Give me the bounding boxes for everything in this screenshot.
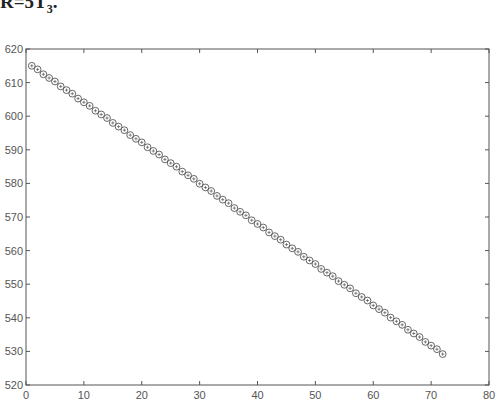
x-tick-label: 40 xyxy=(251,389,263,401)
data-point-cross xyxy=(430,344,433,347)
y-tick-label: 610 xyxy=(5,77,23,89)
x-tick-label: 50 xyxy=(309,389,321,401)
data-point-cross xyxy=(418,335,421,338)
data-point-cross xyxy=(366,299,369,302)
data-point-cross xyxy=(94,109,97,112)
scatter-chart: 0102030405060708052053054055056057058059… xyxy=(0,0,500,404)
data-point-cross xyxy=(320,267,323,270)
data-point-cross xyxy=(129,133,132,136)
data-point-cross xyxy=(291,247,294,250)
y-tick-label: 520 xyxy=(5,379,23,391)
data-point-cross xyxy=(395,320,398,323)
data-point-cross xyxy=(204,186,207,189)
data-point-cross xyxy=(285,243,288,246)
x-tick-label: 80 xyxy=(483,389,495,401)
data-point-cross xyxy=(198,182,201,185)
data-point-cross xyxy=(36,68,39,71)
data-point-cross xyxy=(134,137,137,140)
data-point-cross xyxy=(53,80,56,83)
data-point-cross xyxy=(337,279,340,282)
data-point-cross xyxy=(331,275,334,278)
data-point-cross xyxy=(71,92,74,95)
data-point-cross xyxy=(325,271,328,274)
data-point-cross xyxy=(30,64,33,67)
x-tick-label: 0 xyxy=(23,389,29,401)
data-point-cross xyxy=(88,104,91,107)
data-point-cross xyxy=(250,219,253,222)
data-point-cross xyxy=(349,287,352,290)
data-point-cross xyxy=(105,116,108,119)
data-point-cross xyxy=(314,262,317,265)
data-point-cross xyxy=(221,198,224,201)
data-point-cross xyxy=(65,89,68,92)
data-point-cross xyxy=(117,125,120,128)
data-point-cross xyxy=(406,328,409,331)
plot-frame xyxy=(26,49,489,385)
data-point-cross xyxy=(227,202,230,205)
data-point-cross xyxy=(169,162,172,165)
data-point-cross xyxy=(354,292,357,295)
data-point-cross xyxy=(210,189,213,192)
data-point-cross xyxy=(262,226,265,229)
data-point-cross xyxy=(256,222,259,225)
data-point-cross xyxy=(175,165,178,168)
y-tick-label: 590 xyxy=(5,144,23,156)
data-point-cross xyxy=(412,332,415,335)
data-point-cross xyxy=(186,174,189,177)
data-point-cross xyxy=(158,153,161,156)
data-point-cross xyxy=(244,214,247,217)
data-point-cross xyxy=(435,348,438,351)
data-point-cross xyxy=(152,149,155,152)
x-tick-label: 30 xyxy=(194,389,206,401)
data-point-cross xyxy=(441,352,444,355)
y-tick-label: 570 xyxy=(5,211,23,223)
y-tick-label: 550 xyxy=(5,278,23,290)
data-point-cross xyxy=(233,206,236,209)
data-point-cross xyxy=(215,194,218,197)
y-tick-label: 620 xyxy=(5,43,23,55)
data-point-cross xyxy=(140,141,143,144)
data-point-cross xyxy=(279,238,282,241)
data-point-cross xyxy=(59,85,62,88)
y-tick-label: 540 xyxy=(5,312,23,324)
data-point-cross xyxy=(76,97,79,100)
x-tick-label: 20 xyxy=(136,389,148,401)
data-point-cross xyxy=(123,129,126,132)
data-point-cross xyxy=(273,235,276,238)
data-point-cross xyxy=(360,295,363,298)
data-point-cross xyxy=(267,231,270,234)
x-tick-label: 60 xyxy=(367,389,379,401)
data-point-cross xyxy=(146,146,149,149)
data-point-cross xyxy=(372,304,375,307)
data-point-cross xyxy=(424,340,427,343)
x-tick-label: 70 xyxy=(425,389,437,401)
data-point-cross xyxy=(192,177,195,180)
data-point-cross xyxy=(48,76,51,79)
y-tick-label: 580 xyxy=(5,177,23,189)
data-point-cross xyxy=(302,255,305,258)
x-tick-label: 10 xyxy=(78,389,90,401)
data-point-cross xyxy=(163,158,166,161)
data-point-cross xyxy=(181,170,184,173)
data-point-cross xyxy=(239,210,242,213)
y-tick-label: 530 xyxy=(5,345,23,357)
data-point-cross xyxy=(111,121,114,124)
data-point-cross xyxy=(383,311,386,314)
data-point-cross xyxy=(389,316,392,319)
data-point-cross xyxy=(401,323,404,326)
data-point-cross xyxy=(296,250,299,253)
y-tick-label: 560 xyxy=(5,245,23,257)
data-point-cross xyxy=(42,73,45,76)
y-tick-label: 600 xyxy=(5,110,23,122)
data-point-cross xyxy=(308,259,311,262)
data-point-cross xyxy=(343,283,346,286)
data-point-cross xyxy=(82,101,85,104)
data-point-cross xyxy=(377,308,380,311)
data-point-cross xyxy=(100,113,103,116)
